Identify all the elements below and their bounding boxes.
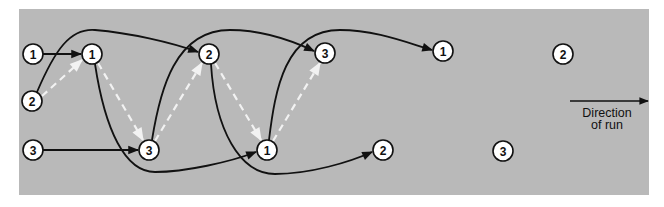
svg-text:1: 1 [89, 48, 96, 62]
svg-text:1: 1 [440, 45, 447, 59]
node-f2: 2 [553, 44, 573, 64]
node-e1: 1 [433, 41, 453, 61]
svg-text:2: 2 [380, 144, 387, 158]
svg-text:2: 2 [560, 48, 567, 62]
svg-text:1: 1 [264, 144, 271, 158]
node-a2: 2 [22, 91, 42, 111]
svg-text:3: 3 [146, 144, 153, 158]
node-c2: 2 [199, 44, 219, 64]
node-c1: 1 [257, 140, 277, 160]
node-a1: 1 [23, 44, 43, 64]
node-b3: 3 [139, 140, 159, 160]
svg-text:2: 2 [29, 95, 36, 109]
direction-label-line2: of run [591, 118, 623, 132]
run-direction-diagram: 1 2 3 1 3 2 1 3 2 1 3 2 Direction of run [0, 0, 664, 207]
node-d2: 2 [373, 140, 393, 160]
svg-text:3: 3 [500, 145, 507, 159]
svg-text:2: 2 [206, 48, 213, 62]
diagram-panel [19, 9, 649, 195]
svg-text:3: 3 [322, 47, 329, 61]
svg-text:3: 3 [30, 144, 37, 158]
svg-text:1: 1 [30, 48, 37, 62]
node-b1: 1 [82, 44, 102, 64]
node-a3: 3 [23, 140, 43, 160]
node-d3: 3 [315, 43, 335, 63]
node-e3: 3 [493, 141, 513, 161]
